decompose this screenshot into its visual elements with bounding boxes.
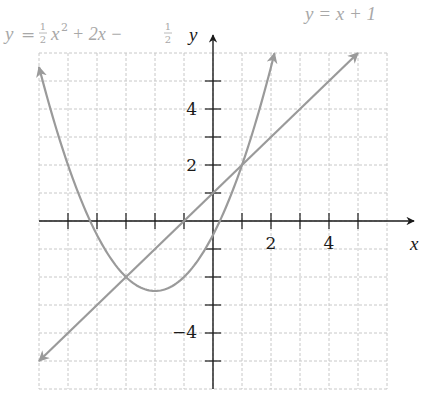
svg-text:2: 2 xyxy=(40,34,46,45)
svg-text:1: 1 xyxy=(165,21,171,32)
parabola-curve xyxy=(39,53,274,291)
svg-text:+ 2x −: + 2x − xyxy=(72,24,122,44)
svg-text:=: = xyxy=(21,24,35,44)
svg-text:2: 2 xyxy=(61,21,68,34)
y-axis-label: y xyxy=(187,24,198,45)
svg-text:1: 1 xyxy=(40,21,46,32)
line-curve xyxy=(39,53,358,361)
y-tick-label-4: 4 xyxy=(186,99,197,119)
svg-text:y: y xyxy=(3,23,14,44)
svg-text:x: x xyxy=(50,23,60,44)
graph-plot: 2 4 4 2 −4 x y y = 1 2 x 2 + 2x − 1 2 y … xyxy=(0,0,429,402)
line-equation-label: y = x + 1 xyxy=(303,3,376,24)
x-axis-label: x xyxy=(409,233,419,254)
y-tick-label-2: 2 xyxy=(186,155,197,175)
x-tick-label-2: 2 xyxy=(266,233,277,253)
x-tick-label-4: 4 xyxy=(324,233,335,253)
svg-text:2: 2 xyxy=(165,34,171,45)
parabola-equation-label: y = 1 2 x 2 + 2x − 1 2 xyxy=(3,21,172,45)
y-tick-label-neg4: −4 xyxy=(172,322,197,342)
